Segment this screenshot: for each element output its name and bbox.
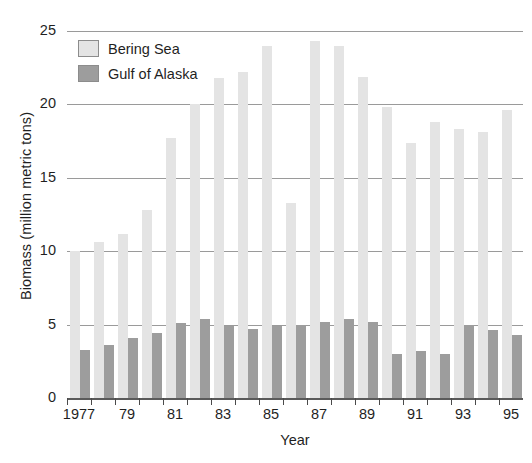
bar-group-1992 [430,31,450,398]
bar-gulf-of-alaska-1994 [488,330,498,398]
bar-bering-sea-1984 [238,72,248,398]
x-tick-minor-1994 [475,398,476,405]
x-tick-91 [403,398,404,405]
bar-gulf-of-alaska-1993 [464,325,474,398]
bar-gulf-of-alaska-1986 [296,325,306,398]
x-tick-79 [115,398,116,405]
bar-gulf-of-alaska-1979 [128,338,138,398]
x-tick-85 [259,398,260,405]
x-tick-label-91: 91 [407,406,423,422]
bar-group-1990 [382,31,402,398]
x-tick-83 [211,398,212,405]
bar-gulf-of-alaska-1987 [320,322,330,398]
bar-bering-sea-1992 [430,122,440,398]
bar-bering-sea-1983 [214,78,224,398]
bar-gulf-of-alaska-1981 [176,323,186,398]
legend-item-bering-sea: Bering Sea [78,37,288,60]
chart-legend: Bering Sea Gulf of Alaska [78,37,288,87]
legend-swatch-icon-gulf-of-alaska [78,65,99,82]
bar-gulf-of-alaska-1984 [248,329,258,398]
bar-bering-sea-1994 [478,132,488,398]
bar-gulf-of-alaska-1983 [224,326,234,398]
y-tick-label-0: 0 [48,390,56,404]
bar-bering-sea-1989 [358,77,368,398]
bar-bering-sea-1995 [502,110,512,398]
y-tick-label-5: 5 [48,317,56,331]
bar-group-1989 [358,31,378,398]
bar-gulf-of-alaska-1990 [392,354,402,398]
y-tick-label-10: 10 [40,243,56,257]
x-tick-1977 [67,398,68,405]
bar-bering-sea-1977 [70,251,80,398]
bar-group-1993 [454,31,474,398]
x-tick-label-85: 85 [263,406,279,422]
bar-bering-sea-1978 [94,242,104,398]
x-tick-93 [451,398,452,405]
y-tick-label-25: 25 [40,23,56,37]
x-tick-minor-1992 [427,398,428,405]
bar-bering-sea-1993 [454,129,464,398]
x-tick-minor-1986 [283,398,284,405]
bar-bering-sea-1986 [286,203,296,398]
bar-gulf-of-alaska-1995 [512,335,522,398]
x-tick-minor-1982 [187,398,188,405]
y-axis-tick-labels: 0510152025 [0,0,62,463]
x-tick-label-81: 81 [167,406,183,422]
bar-bering-sea-1990 [382,107,392,398]
bar-group-1986 [286,31,306,398]
x-tick-89 [355,398,356,405]
legend-swatch-icon-bering-sea [78,40,99,57]
bar-gulf-of-alaska-1978 [104,345,114,398]
bar-gulf-of-alaska-1980 [152,333,162,398]
x-tick-label-93: 93 [455,406,471,422]
bar-gulf-of-alaska-1992 [440,354,450,398]
bar-gulf-of-alaska-1989 [368,322,378,398]
bar-group-1994 [478,31,498,398]
x-tick-81 [163,398,164,405]
y-tick-label-20: 20 [40,96,56,110]
x-tick-label-1977: 1977 [63,406,95,422]
bar-bering-sea-1987 [310,41,320,398]
legend-label-gulf-of-alaska: Gulf of Alaska [108,66,197,82]
bar-gulf-of-alaska-1988 [344,319,354,398]
legend-item-gulf-of-alaska: Gulf of Alaska [78,62,288,85]
x-tick-label-89: 89 [359,406,375,422]
bar-group-1987 [310,31,330,398]
x-tick-label-79: 79 [119,406,135,422]
bar-group-1988 [334,31,354,398]
chart-figure: Biomass (million metric tons) 0510152025… [0,0,532,463]
x-tick-minor-1988 [331,398,332,405]
x-tick-label-95: 95 [503,406,519,422]
bar-bering-sea-1982 [190,104,200,398]
x-tick-label-83: 83 [215,406,231,422]
bar-gulf-of-alaska-1982 [200,319,210,398]
gridline-0 [67,398,523,400]
bar-bering-sea-1979 [118,234,128,398]
x-tick-label-87: 87 [311,406,327,422]
bar-group-1995 [502,31,522,398]
x-tick-minor-1990 [379,398,380,405]
bar-bering-sea-1981 [166,138,176,398]
legend-label-bering-sea: Bering Sea [108,41,180,57]
bar-group-1991 [406,31,426,398]
bar-bering-sea-1988 [334,46,344,398]
bar-bering-sea-1991 [406,143,416,398]
x-tick-minor-1978 [91,398,92,405]
bar-gulf-of-alaska-1977 [80,350,90,398]
x-tick-95 [499,398,500,405]
x-tick-minor-1980 [139,398,140,405]
x-tick-minor-1984 [235,398,236,405]
bar-gulf-of-alaska-1985 [272,326,282,398]
y-tick-label-15: 15 [40,170,56,184]
bar-bering-sea-1985 [262,46,272,398]
bar-bering-sea-1980 [142,210,152,398]
x-axis-title: Year [60,432,530,448]
bar-gulf-of-alaska-1991 [416,351,426,398]
x-tick-87 [307,398,308,405]
